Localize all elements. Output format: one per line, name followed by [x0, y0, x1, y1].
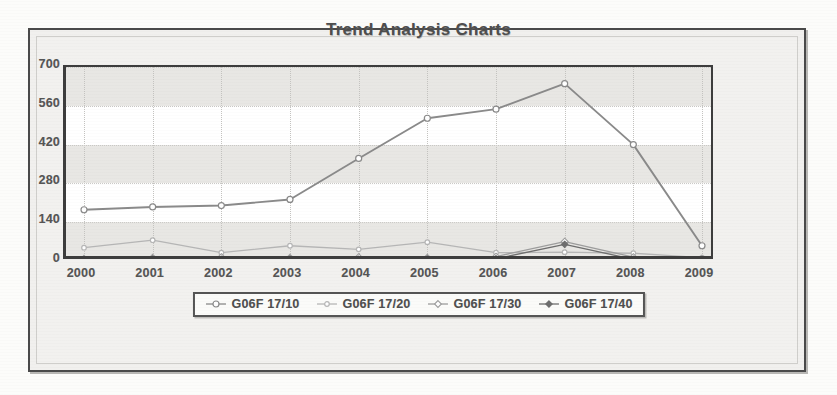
legend-item-label: G06F 17/30 [454, 297, 522, 311]
chart-legend: G06F 17/10G06F 17/20G06F 17/30G06F 17/40 [192, 292, 644, 317]
data-point-circle-open [212, 301, 218, 307]
y-axis-tick-label: 560 [0, 96, 60, 110]
x-axis-tick-label: 2000 [51, 266, 111, 280]
legend-marker-diamond-filled-icon [538, 298, 560, 310]
legend-item-4[interactable]: G06F 17/40 [538, 297, 633, 311]
x-axis-tick-label: 2002 [188, 266, 248, 280]
legend-item-1[interactable]: G06F 17/10 [204, 297, 299, 311]
x-axis-tick-label: 2006 [463, 266, 523, 280]
y-axis-tick-label: 700 [0, 57, 60, 71]
legend-marker-circle-open-small-icon [315, 298, 337, 310]
x-axis-tick-label: 2008 [600, 266, 660, 280]
x-axis-tick-label: 2004 [326, 266, 386, 280]
x-axis-tick-label: 2009 [669, 266, 729, 280]
legend-item-label: G06F 17/20 [342, 297, 410, 311]
legend-item-2[interactable]: G06F 17/20 [315, 297, 410, 311]
x-axis-tick-label: 2001 [120, 266, 180, 280]
y-axis-tick-label: 420 [0, 135, 60, 149]
x-axis-tick-label: 2003 [257, 266, 317, 280]
y-axis: 0140280420560700 [0, 65, 778, 265]
x-axis-tick-label: 2005 [394, 266, 454, 280]
scanned-page: Trend Analysis Charts 0140280420560700 2… [0, 0, 837, 395]
y-axis-tick-label: 140 [0, 212, 60, 226]
legend-item-3[interactable]: G06F 17/30 [427, 297, 522, 311]
page-title: Trend Analysis Charts [0, 20, 837, 40]
legend-item-label: G06F 17/10 [231, 297, 299, 311]
x-axis: 2000200120022003200420052006200720082009 [63, 266, 713, 288]
legend-marker-circle-open-icon [204, 298, 226, 310]
x-axis-tick-label: 2007 [532, 266, 592, 280]
data-point-circle-open-small [324, 302, 329, 307]
legend-item-label: G06F 17/40 [565, 297, 633, 311]
legend-marker-diamond-open-icon [427, 298, 449, 310]
data-point-diamond-open [434, 301, 441, 308]
y-axis-tick-label: 0 [0, 251, 60, 265]
data-point-diamond-filled [545, 301, 551, 307]
y-axis-tick-label: 280 [0, 173, 60, 187]
